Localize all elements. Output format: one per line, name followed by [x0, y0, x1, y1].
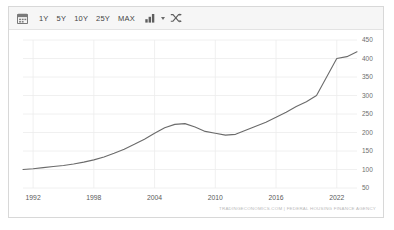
- chart-widget: 1Y 5Y 10Y 25Y MAX 45040035030025: [8, 6, 384, 218]
- series-line-house-price-index: [23, 52, 357, 170]
- y-axis-tick-label: 450: [362, 36, 373, 43]
- x-axis-tick-label: 1998: [86, 194, 101, 201]
- y-axis-tick-label: 400: [362, 55, 373, 62]
- chart-toolbar: 1Y 5Y 10Y 25Y MAX: [9, 7, 383, 30]
- y-axis-tick-label: 300: [362, 92, 373, 99]
- y-axis-tick-label: 350: [362, 73, 373, 80]
- x-axis-tick-labels: 199219982004201020162022: [26, 194, 345, 201]
- shuffle-compare-icon[interactable]: [169, 11, 184, 25]
- line-chart: 45040035030025020015010050 1992199820042…: [9, 30, 383, 218]
- y-axis-tick-labels: 45040035030025020015010050: [362, 36, 373, 191]
- range-button-1y[interactable]: 1Y: [35, 12, 53, 25]
- bar-chart-icon[interactable]: [143, 11, 158, 25]
- y-axis-tick-label: 100: [362, 166, 373, 173]
- x-axis-tick-label: 2022: [329, 194, 344, 201]
- range-button-5y[interactable]: 5Y: [53, 12, 71, 25]
- y-axis-tick-label: 150: [362, 147, 373, 154]
- grid-lines: [23, 40, 357, 188]
- range-button-25y[interactable]: 25Y: [92, 12, 114, 25]
- range-button-max[interactable]: MAX: [114, 12, 139, 25]
- x-axis-tick-label: 2004: [147, 194, 162, 201]
- y-axis-tick-label: 50: [362, 184, 370, 191]
- calendar-icon[interactable]: [15, 11, 30, 25]
- attribution-text: TRADINGECONOMICS.COM | FEDERAL HOUSING F…: [219, 206, 376, 211]
- chevron-down-icon[interactable]: [161, 17, 165, 20]
- range-button-10y[interactable]: 10Y: [70, 12, 92, 25]
- y-axis-tick-label: 200: [362, 129, 373, 136]
- x-axis-tick-label: 2010: [208, 194, 223, 201]
- y-axis-tick-label: 250: [362, 110, 373, 117]
- chart-plot-area: 45040035030025020015010050 1992199820042…: [9, 30, 383, 217]
- x-axis-tick-label: 2016: [268, 194, 283, 201]
- x-axis-tick-label: 1992: [26, 194, 41, 201]
